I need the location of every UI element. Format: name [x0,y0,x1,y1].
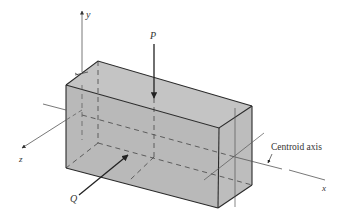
x-axis-label: x [321,183,326,193]
y-axis-label: y [85,9,91,20]
z-axis-label: z [18,154,23,164]
load-q-label: Q [70,193,78,204]
centroid-axis-left [43,104,66,110]
z-axis [22,120,66,148]
centroid-axis-label: Centroid axis [271,142,322,152]
centroid-axis-leader [268,154,272,163]
x-axis-segment [289,170,325,180]
beam-diagram: y x Centroid axis z P Q [0,0,350,223]
load-p-label: P [149,30,156,41]
